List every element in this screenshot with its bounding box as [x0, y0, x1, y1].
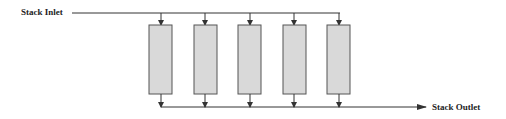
stack-inlet-label: Stack Inlet: [21, 7, 63, 17]
fuel-cell-stack-diagram: Stack Inlet Stack Outlet: [0, 0, 506, 119]
cell-5: [327, 25, 350, 94]
inlet-branches: [161, 13, 339, 25]
cell-3: [238, 25, 261, 94]
flow-schematic: [0, 0, 506, 119]
cells: [149, 25, 350, 94]
stack-outlet-label: Stack Outlet: [432, 102, 480, 112]
cell-4: [283, 25, 306, 94]
cell-1: [149, 25, 172, 94]
cell-2: [194, 25, 217, 94]
outlet-branches: [161, 94, 339, 107]
